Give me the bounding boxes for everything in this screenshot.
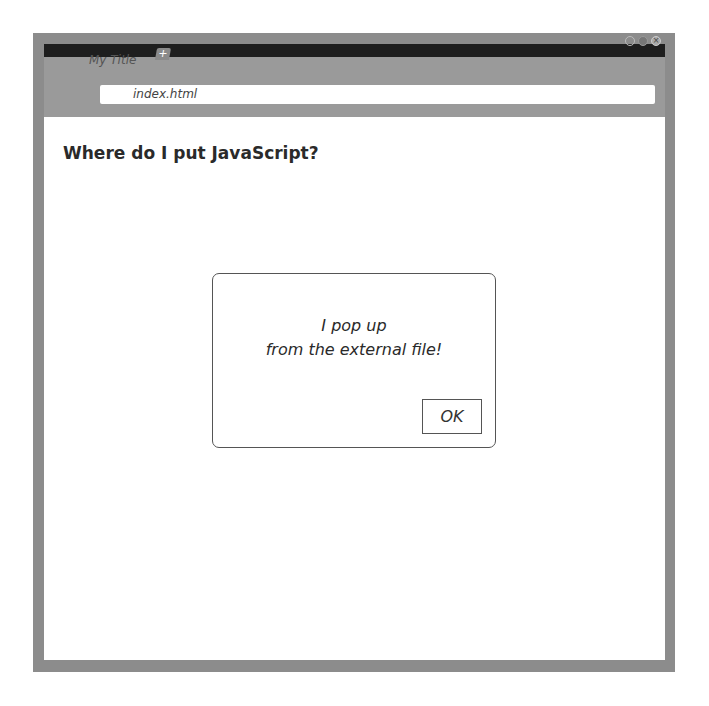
tab-strip: My Title + × index.html bbox=[44, 57, 665, 117]
ok-button[interactable]: OK bbox=[422, 399, 482, 434]
new-tab-icon[interactable]: + bbox=[155, 48, 171, 60]
page-content: Where do I put JavaScript? I pop up from… bbox=[44, 117, 665, 660]
address-bar[interactable]: index.html bbox=[100, 85, 655, 104]
alert-message-line-2: from the external file! bbox=[213, 338, 495, 362]
browser-window: My Title + × index.html Where do I put J… bbox=[33, 33, 675, 672]
close-icon[interactable]: × bbox=[651, 36, 661, 46]
address-url: index.html bbox=[133, 87, 197, 101]
page-title: Where do I put JavaScript? bbox=[63, 143, 319, 163]
alert-dialog: I pop up from the external file! OK bbox=[212, 273, 496, 448]
title-bar bbox=[44, 44, 665, 57]
alert-message: I pop up from the external file! bbox=[213, 314, 495, 362]
maximize-icon[interactable] bbox=[638, 36, 648, 46]
alert-message-line-1: I pop up bbox=[213, 314, 495, 338]
tab-title[interactable]: My Title bbox=[89, 53, 136, 67]
minimize-icon[interactable] bbox=[625, 36, 635, 46]
window-controls: × bbox=[625, 36, 661, 46]
